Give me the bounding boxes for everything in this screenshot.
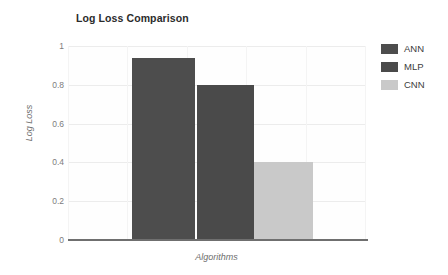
- gridline-vertical: [365, 46, 366, 240]
- x-axis-baseline: [68, 239, 368, 241]
- legend-item-mlp[interactable]: MLP: [381, 58, 445, 75]
- y-axis-tick-label: 0.2: [20, 196, 64, 206]
- legend-swatch-icon: [381, 44, 398, 54]
- bar-ann[interactable]: [132, 58, 195, 240]
- legend-item-cnn[interactable]: CNN: [381, 76, 445, 93]
- plot-area: [68, 46, 365, 240]
- bar-mlp[interactable]: [197, 85, 254, 240]
- chart-title: Log Loss Comparison: [76, 12, 189, 24]
- gridline-vertical: [127, 46, 128, 240]
- gridline-vertical: [68, 46, 69, 240]
- y-axis-tick-label: 0.4: [20, 157, 64, 167]
- log-loss-bar-chart: Log Loss Comparison 00.20.40.60.81 Log L…: [0, 0, 448, 275]
- legend-label: ANN: [404, 43, 424, 54]
- legend-swatch-icon: [381, 80, 398, 90]
- y-axis-label: Log Loss: [24, 88, 34, 158]
- y-axis-tick-label: 1: [20, 41, 64, 51]
- legend-item-ann[interactable]: ANN: [381, 40, 445, 57]
- legend-label: MLP: [404, 61, 424, 72]
- bar-cnn[interactable]: [254, 162, 313, 240]
- chart-legend: ANNMLPCNN: [381, 40, 445, 94]
- legend-label: CNN: [404, 79, 425, 90]
- gridline-horizontal: [68, 46, 365, 47]
- legend-swatch-icon: [381, 62, 398, 72]
- x-axis-label: Algorithms: [68, 252, 365, 262]
- y-axis-tick-label: 0: [20, 235, 64, 245]
